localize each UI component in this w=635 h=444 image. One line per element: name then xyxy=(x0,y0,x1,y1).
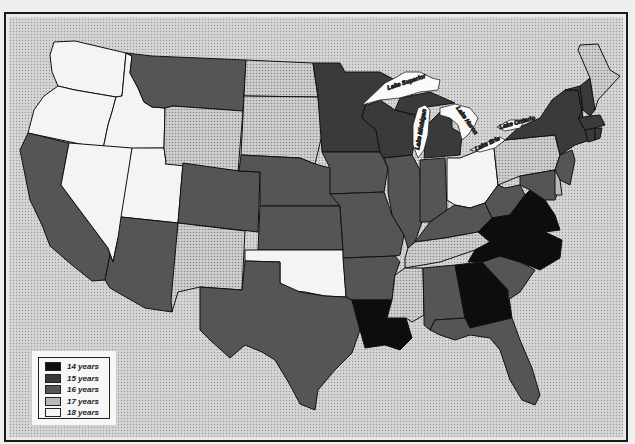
legend-box: 14 years 15 years 16 years 17 years 18 y… xyxy=(38,357,110,419)
legend-label-18: 18 years xyxy=(67,408,99,417)
legend-swatch-15 xyxy=(45,374,61,383)
legend-item-16: 16 years xyxy=(45,384,109,396)
legend-item-15: 15 years xyxy=(45,373,109,385)
state-IA xyxy=(322,152,388,194)
state-KS xyxy=(258,206,343,250)
legend-swatch-16 xyxy=(45,385,61,394)
state-SD xyxy=(241,96,322,164)
state-ND xyxy=(244,60,318,97)
legend-label-16: 16 years xyxy=(67,385,99,394)
state-AR xyxy=(343,256,400,300)
legend-label-17: 17 years xyxy=(67,397,99,406)
legend-label-15: 15 years xyxy=(67,374,99,383)
legend-label-14: 14 years xyxy=(67,362,99,371)
legend-swatch-14 xyxy=(45,362,61,371)
state-MT xyxy=(126,53,246,111)
legend-swatch-18 xyxy=(45,408,61,417)
legend-swatch-17 xyxy=(45,397,61,406)
legend-item-14: 14 years xyxy=(45,361,109,373)
state-CO xyxy=(178,163,260,232)
legend-item-17: 17 years xyxy=(45,396,109,408)
state-WY xyxy=(164,106,243,171)
map-legend: 14 years 15 years 16 years 17 years 18 y… xyxy=(32,351,116,425)
legend-item-18: 18 years xyxy=(45,407,109,419)
